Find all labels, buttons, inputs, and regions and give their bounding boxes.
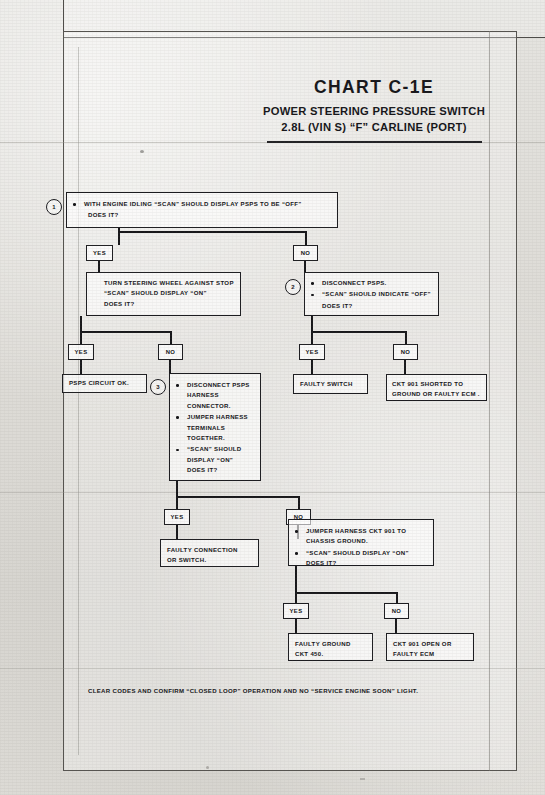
jumper-ground-bullet2-line1: “SCAN” SHOULD DISPLAY “ON” — [306, 550, 409, 556]
step-3-bullet1-line2: HARNESS CONNECTOR. — [187, 390, 255, 411]
terminal-psps-circuit-ok: PSPS CIRCUIT OK. — [62, 374, 147, 393]
chart-title-block: CHART C-1E POWER STEERING PRESSURE SWITC… — [250, 78, 498, 143]
terminal-faulty-connection: FAULTY CONNECTION OR SWITCH. — [160, 539, 259, 567]
connector-jumper-bus — [295, 592, 398, 594]
chart-title: CHART C-1E — [250, 78, 498, 97]
connector-step2-yes — [311, 331, 313, 344]
turn-wheel-line3: DOES IT? — [91, 299, 234, 309]
step-3-bullet3-line3: DOES IT? — [187, 465, 255, 475]
title-underline — [267, 141, 482, 143]
jumper-ground-box: JUMPER HARNESS CKT 901 TO CHASSIS GROUND… — [288, 519, 434, 566]
turn-wheel-line1: TURN STEERING WHEEL AGAINST STOP — [91, 278, 234, 288]
terminal-faulty-ground-line1: FAULTY GROUND — [295, 639, 366, 649]
terminal-faulty-ground: FAULTY GROUND CKT 450. — [288, 633, 373, 661]
connector-turnwheel-left — [80, 316, 82, 331]
step-2-box: DISCONNECT PSPS. “SCAN” SHOULD INDICATE … — [304, 272, 439, 316]
connector-step1-yes — [118, 231, 120, 245]
step-marker-2: 2 — [285, 279, 301, 295]
step-1-line2: DOES IT? — [71, 210, 330, 220]
scan-artifact-line — [0, 492, 545, 493]
step-1-box: WITH ENGINE IDLING “SCAN” SHOULD DISPLAY… — [66, 192, 338, 228]
connector-step3-bus — [176, 496, 300, 498]
connector-step3-yes — [176, 496, 178, 509]
connector-step2-bus — [311, 331, 407, 333]
branch-tag-yes-jumper: YES — [283, 603, 309, 619]
connector-yes-turnwheel-down — [80, 360, 82, 374]
step-2-line3: DOES IT? — [309, 301, 432, 311]
branch-tag-yes-step2: YES — [299, 344, 325, 360]
terminal-faulty-ground-line2: CKT 450. — [295, 649, 366, 659]
terminal-ckt901-shorted-line1: CKT 901 SHORTED TO — [392, 379, 481, 389]
step-3-bullet3: “SCAN” SHOULD DISPLAY “ON” DOES IT? — [174, 444, 255, 475]
step-marker-3: 3 — [150, 379, 166, 395]
footer-note: CLEAR CODES AND CONFIRM “CLOSED LOOP” OP… — [88, 688, 478, 694]
connector-step1-no — [305, 231, 307, 245]
terminal-faulty-switch-text: FAULTY SWITCH — [300, 379, 353, 389]
connector-no1-down — [304, 261, 306, 272]
connector-step3-no — [298, 496, 300, 509]
step-1-text: WITH ENGINE IDLING “SCAN” SHOULD DISPLAY… — [71, 199, 330, 209]
jumper-ground-bullet2: “SCAN” SHOULD DISPLAY “ON” DOES IT? — [293, 548, 427, 569]
connector-no-turnwheel-down — [169, 360, 171, 373]
connector-turnwheel-yes — [80, 331, 82, 344]
step-3-bullet3-line1: “SCAN” SHOULD — [187, 446, 242, 452]
step-3-bullet3-line2: DISPLAY “ON” — [187, 455, 255, 465]
terminal-ckt901-shorted-line2: GROUND OR FAULTY ECM . — [392, 389, 481, 399]
step-3-text: DISCONNECT PSPS HARNESS CONNECTOR. JUMPE… — [174, 380, 255, 476]
jumper-ground-bullet1: JUMPER HARNESS CKT 901 TO CHASSIS GROUND… — [293, 526, 427, 547]
connector-jumper-left — [295, 566, 297, 592]
jumper-ground-bullet1-line2: CHASSIS GROUND. — [306, 536, 427, 546]
terminal-ckt901-open: CKT 901 OPEN OR FAULTY ECM — [386, 633, 474, 661]
turn-wheel-box: TURN STEERING WHEEL AGAINST STOP “SCAN” … — [86, 272, 241, 316]
terminal-ckt901-shorted: CKT 901 SHORTED TO GROUND OR FAULTY ECM … — [386, 374, 487, 401]
scan-speck — [140, 150, 144, 153]
step-3-bullet2: JUMPER HARNESS TERMINALS TOGETHER. — [174, 412, 255, 443]
terminal-faulty-switch: FAULTY SWITCH — [293, 374, 368, 394]
connector-jumper-yes — [295, 592, 297, 603]
step-1-line1: WITH ENGINE IDLING “SCAN” SHOULD DISPLAY… — [71, 199, 330, 209]
step-3-bullet2-line1: JUMPER HARNESS — [187, 414, 248, 420]
step-3-bullet1: DISCONNECT PSPS HARNESS CONNECTOR. — [174, 380, 255, 411]
terminal-psps-circuit-ok-text: PSPS CIRCUIT OK. — [69, 378, 129, 388]
branch-tag-no-step2: NO — [393, 344, 418, 360]
connector-turnwheel-bus — [80, 331, 172, 333]
chart-subtitle-line2: 2.8L (VIN S) “F” CARLINE (PORT) — [250, 120, 498, 135]
jumper-ground-bullet2-line2: DOES IT? — [306, 558, 427, 568]
connector-turnwheel-no — [170, 331, 172, 344]
step-2-text: DISCONNECT PSPS. “SCAN” SHOULD INDICATE … — [309, 278, 432, 300]
branch-tag-yes-turnwheel: YES — [68, 344, 94, 360]
connector-no-jumper-down — [395, 619, 397, 633]
terminal-ckt901-open-line2: FAULTY ECM — [393, 649, 467, 659]
terminal-ckt901-open-line1: CKT 901 OPEN OR — [393, 639, 467, 649]
branch-tag-no-jumper: NO — [384, 603, 409, 619]
connector-no-step2-down — [404, 360, 406, 374]
branch-tag-yes-step1: YES — [86, 245, 113, 261]
jumper-ground-text: JUMPER HARNESS CKT 901 TO CHASSIS GROUND… — [293, 526, 427, 569]
branch-tag-no-turnwheel: NO — [158, 344, 183, 360]
branch-tag-no-step1: NO — [293, 245, 318, 261]
chart-subtitle: POWER STEERING PRESSURE SWITCH 2.8L (VIN… — [250, 104, 498, 135]
step-3-bullet1-line1: DISCONNECT PSPS — [187, 382, 250, 388]
step-2-bullet2: “SCAN” SHOULD INDICATE “OFF” — [309, 289, 432, 299]
step-marker-1: 1 — [46, 199, 62, 215]
terminal-faulty-connection-line2: OR SWITCH. — [167, 555, 252, 565]
scan-speck — [360, 778, 365, 780]
chart-subtitle-line1: POWER STEERING PRESSURE SWITCH — [250, 104, 498, 119]
step-2-bullet1: DISCONNECT PSPS. — [309, 278, 432, 288]
connector-step2-left — [311, 316, 313, 331]
scan-artifact-line — [0, 668, 545, 669]
turn-wheel-line2: “SCAN” SHOULD DISPLAY “ON” — [91, 288, 234, 298]
branch-tag-yes-step3: YES — [164, 509, 190, 525]
step-3-bullet2-line2: TERMINALS TOGETHER. — [187, 423, 255, 444]
connector-step2-no — [405, 331, 407, 344]
connector-step1-bus — [118, 231, 307, 233]
scan-speck — [206, 766, 209, 769]
jumper-ground-bullet1-line1: JUMPER HARNESS CKT 901 TO — [306, 528, 406, 534]
terminal-faulty-connection-line1: FAULTY CONNECTION — [167, 545, 252, 555]
step-3-box: DISCONNECT PSPS HARNESS CONNECTOR. JUMPE… — [169, 373, 261, 481]
connector-jumper-no — [396, 592, 398, 603]
connector-yes-jumper-down — [295, 619, 297, 633]
connector-yes-step2-down — [311, 360, 313, 374]
connector-step3-left — [176, 481, 178, 496]
connector-yes1-down — [98, 261, 100, 272]
